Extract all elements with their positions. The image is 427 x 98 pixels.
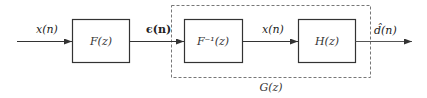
block-f-inverse-label: F⁻¹(z) xyxy=(196,35,229,48)
block-f-label: F(z) xyxy=(89,35,112,48)
block-h-label: H(z) xyxy=(314,35,339,48)
output-signal-label: d̂(n) xyxy=(374,23,397,37)
middle-signal-label: x(n) xyxy=(262,23,284,36)
block-diagram: x(n) F(z) ϵ(n) F⁻¹(z) x(n) H(z) d̂(n) G(… xyxy=(0,0,427,98)
error-signal-label: ϵ(n) xyxy=(146,23,171,36)
group-g-label: G(z) xyxy=(259,81,282,94)
input-signal-label: x(n) xyxy=(36,23,58,36)
